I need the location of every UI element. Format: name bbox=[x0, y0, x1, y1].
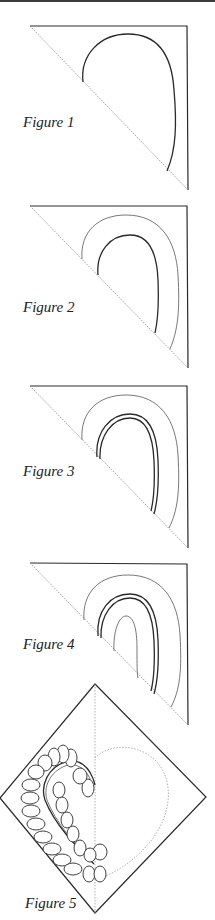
diagonal-line bbox=[30, 206, 188, 368]
figure-2-label: Figure 2 bbox=[23, 299, 75, 316]
diagonal-line bbox=[30, 26, 188, 190]
inner-echo-line bbox=[114, 616, 138, 678]
half-heart-line bbox=[98, 235, 159, 333]
half-heart-line-outer bbox=[98, 594, 159, 694]
half-heart-line-inner bbox=[100, 418, 154, 511]
heart-half-dashed bbox=[95, 747, 168, 880]
feather-plumes bbox=[21, 745, 107, 882]
figure-2-diagram bbox=[30, 206, 188, 368]
quilting-pattern-page: .edge { stroke: #2a2a2a; stroke-width: 1… bbox=[0, 0, 215, 920]
figure-5-label: Figure 5 bbox=[25, 895, 77, 912]
figure-3-label: Figure 3 bbox=[23, 463, 75, 480]
figure-4-label: Figure 4 bbox=[23, 636, 75, 653]
figure-1-diagram bbox=[30, 26, 188, 190]
figure-5-diagram bbox=[0, 684, 206, 913]
half-heart-line bbox=[83, 34, 176, 171]
figures-illustration: .edge { stroke: #2a2a2a; stroke-width: 1… bbox=[0, 0, 215, 920]
outer-echo-line bbox=[82, 395, 179, 528]
figure-1-label: Figure 1 bbox=[23, 114, 75, 131]
